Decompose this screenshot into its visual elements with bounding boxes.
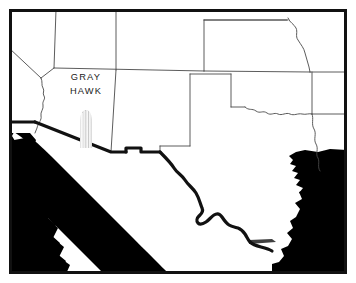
- place-label-line2: HAWK: [70, 86, 102, 96]
- map-body: GRAY HAWK: [9, 9, 347, 274]
- place-label-line1: GRAY: [71, 72, 101, 82]
- map-figure: GRAY HAWK: [0, 0, 356, 283]
- map-canvas: GRAY HAWK: [0, 0, 356, 283]
- saguaro-cactus-icon: [80, 110, 92, 148]
